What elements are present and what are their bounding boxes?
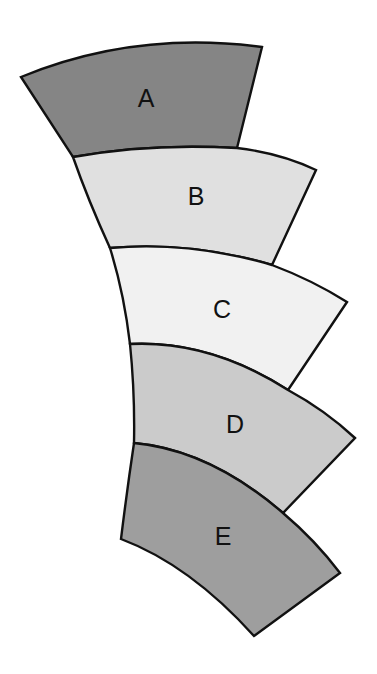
segment-b-label: B xyxy=(188,182,205,210)
segment-d-label: D xyxy=(226,410,244,438)
segment-c-label: C xyxy=(213,295,231,323)
segment-a-label: A xyxy=(138,84,155,112)
segment-e-label: E xyxy=(215,522,232,550)
segment-a: A xyxy=(21,42,262,157)
segment-diagram: A B C D E xyxy=(0,0,377,674)
